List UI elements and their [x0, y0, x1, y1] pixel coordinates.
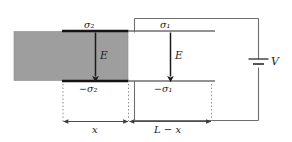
diagram-canvas [0, 0, 292, 142]
label-sigma-1-bottom: −σ₁ [154, 84, 172, 94]
battery-symbol [249, 59, 269, 64]
label-field-right: E [175, 50, 183, 61]
label-dimension-l-minus-x: L − x [154, 125, 181, 135]
label-sigma-1-top: σ₁ [160, 20, 170, 30]
label-sigma-2-bottom: −σ₂ [79, 84, 97, 94]
dielectric-slab [14, 32, 128, 81]
label-field-left: E [100, 50, 108, 61]
label-dimension-x: x [92, 125, 98, 135]
capacitor-dielectric-diagram: σ₂ σ₁ −σ₂ −σ₁ E E V x L − x [0, 0, 292, 142]
label-voltage: V [271, 56, 279, 67]
label-sigma-2-top: σ₂ [84, 20, 94, 30]
